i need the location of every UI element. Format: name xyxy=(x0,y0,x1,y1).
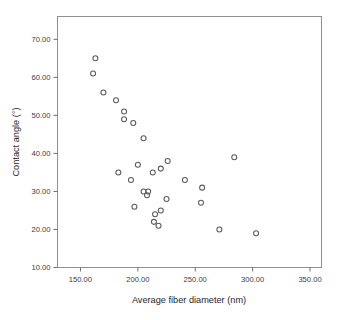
y-axis-title: Contact angle (°) xyxy=(11,107,21,176)
x-tick-label: 300.00 xyxy=(241,275,264,284)
y-tick-label: 20.00 xyxy=(31,225,50,234)
scatter-plot-figure: 150.00200.00250.00300.00350.00 10.0020.0… xyxy=(0,0,341,320)
plot-canvas: 150.00200.00250.00300.00350.00 10.0020.0… xyxy=(0,0,341,320)
x-tick-label: 350.00 xyxy=(298,275,321,284)
x-tick-label: 200.00 xyxy=(126,275,149,284)
y-tick-label: 40.00 xyxy=(31,149,50,158)
x-tick-label: 150.00 xyxy=(69,275,92,284)
x-axis-title: Average fiber diameter (nm) xyxy=(132,295,246,305)
y-tick-label: 10.00 xyxy=(31,263,50,272)
y-tick-label: 50.00 xyxy=(31,111,50,120)
x-tick-label: 250.00 xyxy=(184,275,207,284)
y-tick-label: 30.00 xyxy=(31,187,50,196)
y-tick-label: 60.00 xyxy=(31,73,50,82)
y-tick-label: 70.00 xyxy=(31,35,50,44)
